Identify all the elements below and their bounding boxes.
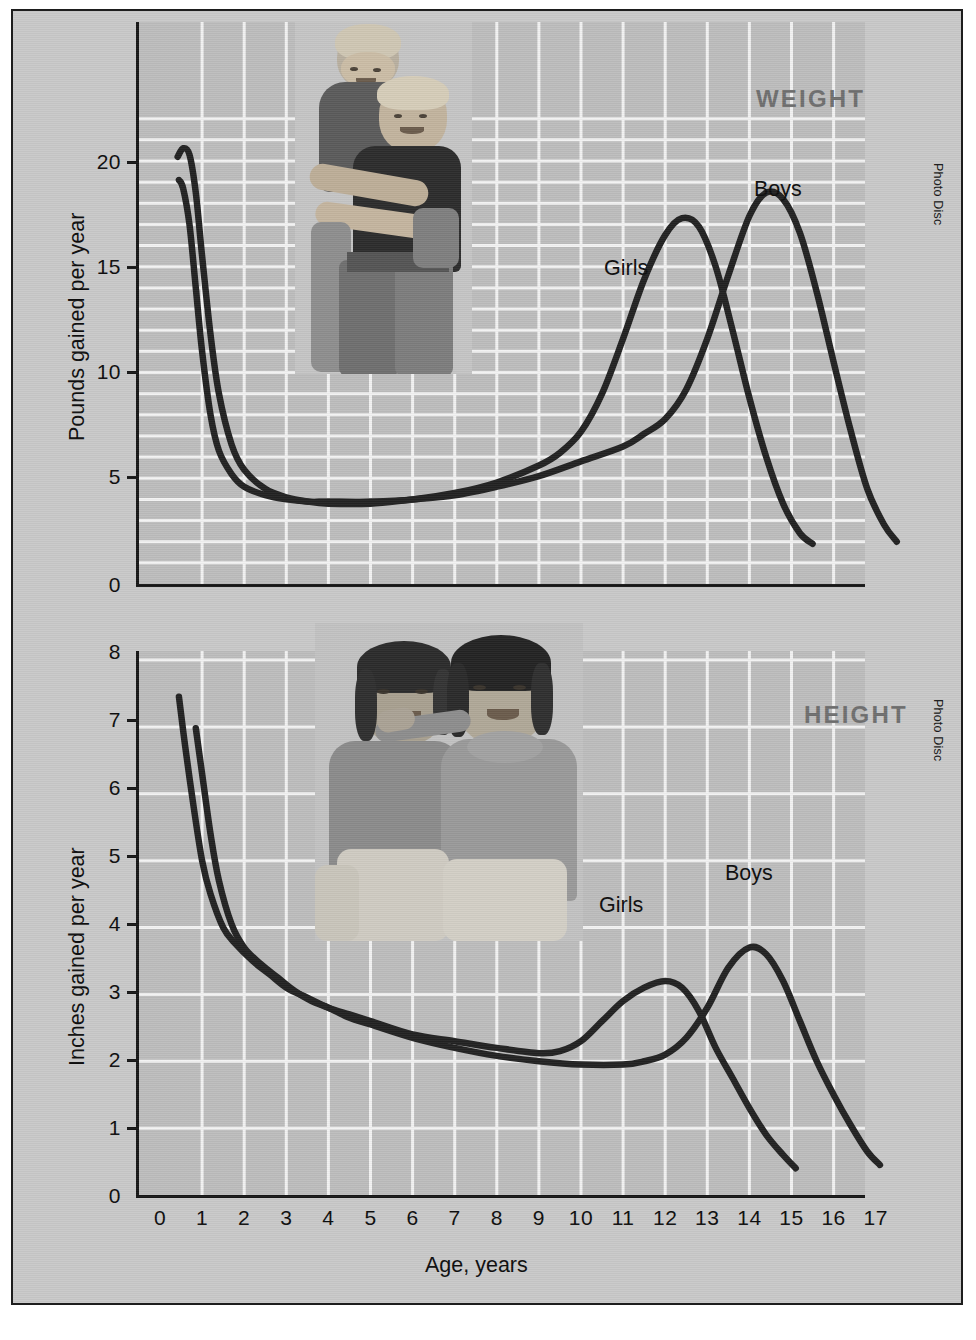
- height-photo-credit: Photo Disc: [931, 699, 945, 761]
- height-series-label-boys: Boys: [725, 861, 773, 886]
- x-axis-tick-label-14: 14: [727, 1207, 771, 1228]
- x-axis-tick-label-17: 17: [854, 1207, 898, 1228]
- x-axis-tick-label-7: 7: [433, 1207, 477, 1228]
- height-curve-boys: [196, 728, 880, 1165]
- height-chart: HEIGHT Girls Boys: [138, 651, 865, 1195]
- x-axis-tick-label-11: 11: [601, 1207, 645, 1228]
- weight-ytick-20: [127, 161, 137, 164]
- weight-panel-title: WEIGHT: [756, 85, 865, 113]
- x-axis-title: Age, years: [425, 1253, 528, 1278]
- height-ylabel-1: 1: [81, 1117, 121, 1138]
- figure-page: WEIGHT Girls Boys 20 15 10 5 0 Pounds ga…: [0, 0, 976, 1340]
- x-axis-tick-label-16: 16: [812, 1207, 856, 1228]
- height-ylabel-8: 8: [81, 641, 121, 662]
- height-curve-girls: [179, 697, 796, 1168]
- figure-panel: WEIGHT Girls Boys 20 15 10 5 0 Pounds ga…: [11, 9, 963, 1305]
- x-axis-tick-label-4: 4: [306, 1207, 350, 1228]
- x-axis-tick-label-3: 3: [264, 1207, 308, 1228]
- height-ylabel-0: 0: [81, 1185, 121, 1206]
- height-y-axis-title: Inches gained per year: [65, 847, 90, 1066]
- weight-ytick-15: [127, 266, 137, 269]
- x-axis-tick-label-15: 15: [770, 1207, 814, 1228]
- weight-photo-credit: Photo Disc: [931, 163, 945, 225]
- height-curves: [138, 651, 865, 1195]
- weight-ytick-5: [127, 476, 137, 479]
- height-ylabel-7: 7: [81, 709, 121, 730]
- x-axis-tick-label-2: 2: [222, 1207, 266, 1228]
- height-ytick-2: [127, 1059, 137, 1062]
- weight-series-label-girls: Girls: [604, 256, 648, 281]
- height-x-axis: [136, 1195, 865, 1198]
- x-axis-tick-label-10: 10: [559, 1207, 603, 1228]
- weight-chart: WEIGHT Girls Boys: [138, 22, 865, 584]
- height-ytick-5: [127, 855, 137, 858]
- height-ytick-6: [127, 787, 137, 790]
- height-ytick-1: [127, 1127, 137, 1130]
- x-axis-tick-label-13: 13: [685, 1207, 729, 1228]
- x-axis-tick-label-0: 0: [138, 1207, 182, 1228]
- height-ylabel-6: 6: [81, 777, 121, 798]
- weight-y-axis-title: Pounds gained per year: [65, 213, 90, 441]
- weight-y-axis: [136, 22, 139, 587]
- height-ytick-3: [127, 991, 137, 994]
- x-axis-tick-label-9: 9: [517, 1207, 561, 1228]
- weight-series-label-boys: Boys: [754, 177, 802, 202]
- weight-ylabel-5: 5: [81, 466, 121, 487]
- x-axis-tick-label-8: 8: [475, 1207, 519, 1228]
- height-ytick-4: [127, 923, 137, 926]
- x-axis-tick-label-12: 12: [643, 1207, 687, 1228]
- x-axis-tick-label-1: 1: [180, 1207, 224, 1228]
- x-axis-tick-label-5: 5: [349, 1207, 393, 1228]
- weight-x-axis: [136, 584, 865, 587]
- weight-ytick-10: [127, 371, 137, 374]
- x-axis-tick-label-6: 6: [391, 1207, 435, 1228]
- weight-curve-boys: [178, 148, 897, 542]
- height-series-label-girls: Girls: [599, 893, 643, 918]
- height-ytick-7: [127, 719, 137, 722]
- weight-ylabel-20: 20: [81, 151, 121, 172]
- weight-ylabel-0: 0: [81, 574, 121, 595]
- height-panel-title: HEIGHT: [804, 701, 908, 729]
